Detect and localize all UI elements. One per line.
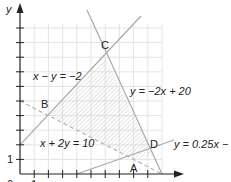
- y-axis: [16, 3, 24, 174]
- x-tick-label-1: 1: [31, 178, 37, 182]
- x-axis-label: x: [175, 179, 182, 182]
- vertex-label-d: D: [150, 138, 158, 150]
- y-axis-label: y: [5, 3, 13, 15]
- label-line-x-plus-2y: x + 2y = 10: [39, 137, 95, 149]
- coordinate-graph: y 1 0 1 x x − y = −2 y = −2x + 20 x + 2y…: [0, 0, 231, 182]
- vertex-label-a: A: [130, 162, 138, 174]
- vertex-label-b: B: [41, 98, 48, 110]
- label-line-neg2x-plus-20: y = −2x + 20: [129, 85, 192, 97]
- y-tick-label-1: 1: [7, 153, 13, 165]
- x-axis: [20, 170, 184, 178]
- label-line-0.25x-minus-1: y = 0.25x − 1: [173, 138, 231, 150]
- label-line-x-minus-y: x − y = −2: [32, 70, 82, 82]
- origin-label: 0: [7, 178, 13, 182]
- vertex-label-c: C: [101, 39, 109, 51]
